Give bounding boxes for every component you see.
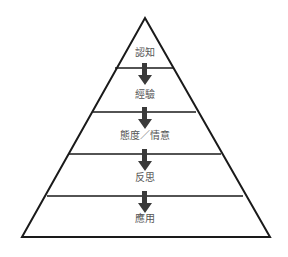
layer-label-cognition: 認知 xyxy=(135,46,155,58)
layer-label-attitude-affect: 態度／情意 xyxy=(120,129,170,141)
pyramid-diagram: 認知 經驗 態度／情意 反思 應用 xyxy=(0,0,288,257)
layer-label-reflection: 反思 xyxy=(135,172,155,183)
layer-label-application: 應用 xyxy=(135,212,155,224)
layer-label-experience: 經驗 xyxy=(135,88,155,100)
